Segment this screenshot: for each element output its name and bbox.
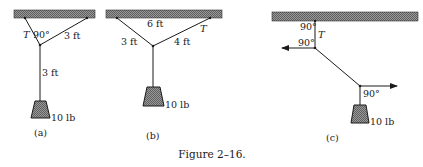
junction-a [39, 44, 42, 47]
ceiling-b [106, 10, 222, 18]
weight-label-a: 10 lb [51, 112, 75, 123]
weight-a [31, 101, 50, 118]
tension-label-b: T [200, 23, 208, 34]
ceiling-a [14, 10, 95, 18]
rope-c-diagonal [315, 48, 360, 86]
angle-label-a: 90° [33, 29, 50, 40]
panel-a: T 90° 3 ft 3 ft 10 lb (a) [14, 10, 95, 138]
panel-label-c: (c) [326, 132, 339, 143]
panel-b: 6 ft 3 ft 4 ft T 10 lb (b) [106, 10, 222, 141]
vertical-rope-length-a: 3 ft [42, 67, 59, 78]
panel-c: 90° T 90° 90° 10 lb (c) [272, 12, 418, 143]
right-rope-length-b: 4 ft [174, 36, 191, 47]
lower-angle-c: 90° [363, 88, 380, 99]
tension-label-c: T [318, 29, 326, 40]
panel-label-b: (b) [146, 130, 160, 141]
right-rope-length-a: 3 ft [64, 30, 81, 41]
weight-b [143, 87, 164, 106]
figure-caption: Figure 2–16. [178, 148, 245, 160]
panel-label-a: (a) [34, 127, 47, 138]
figure-2-16: T 90° 3 ft 3 ft 10 lb (a) 6 ft 3 ft 4 ft… [0, 0, 423, 167]
weight-label-c: 10 lb [370, 116, 394, 127]
junction-b [152, 45, 155, 48]
junction-c-lower [359, 85, 362, 88]
left-angle-c: 90° [298, 37, 315, 48]
left-rope-length-b: 3 ft [121, 36, 138, 47]
tension-label-a: T [23, 29, 31, 40]
weight-label-b: 10 lb [165, 99, 189, 110]
top-angle-c: 90° [300, 21, 317, 32]
ceiling-c [272, 12, 418, 21]
weight-c [351, 105, 369, 123]
ceiling-span-b: 6 ft [147, 18, 164, 29]
